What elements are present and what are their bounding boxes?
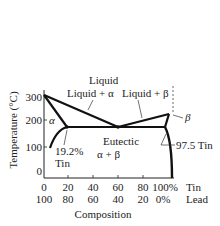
y-axis-label: Temperature (°C) bbox=[7, 91, 20, 169]
y-tick-label-100: 100 bbox=[26, 141, 43, 153]
alpha-limit-pct: 19.2% bbox=[55, 145, 83, 157]
region-liquid-beta: Liquid + β bbox=[122, 87, 169, 99]
x-tin-label-100: 100% bbox=[152, 181, 178, 193]
x-tin-label-0: 0 bbox=[41, 181, 47, 193]
alpha-limit-point bbox=[65, 125, 69, 129]
x-lead-label-20: 20 bbox=[138, 193, 150, 205]
leader-liquid-beta bbox=[138, 100, 142, 118]
x-lead-label-60: 60 bbox=[88, 193, 100, 205]
x-tin-label-40: 40 bbox=[88, 181, 100, 193]
leader-liquid-alpha bbox=[88, 100, 93, 110]
leader-97-5-up bbox=[161, 134, 166, 145]
liquidus-right-line bbox=[118, 114, 169, 127]
leader-19-2 bbox=[64, 130, 67, 145]
region-alpha-beta: α + β bbox=[97, 148, 120, 160]
x-lead-caption: Lead bbox=[186, 193, 208, 205]
x-tin-label-60: 60 bbox=[113, 181, 125, 193]
region-liquid: Liquid bbox=[89, 74, 119, 86]
alpha-limit-unit: Tin bbox=[55, 157, 70, 169]
eutectic-point bbox=[116, 125, 120, 129]
leader-beta bbox=[173, 115, 183, 118]
y-tick-label-300: 300 bbox=[26, 91, 43, 103]
x-tin-label-80: 80 bbox=[138, 181, 150, 193]
x-lead-label-0: 0% bbox=[156, 193, 171, 205]
phase-diagram: 300 200 100 0 Temperature (°C) 0 20 40 6… bbox=[0, 0, 220, 226]
y-tick-label-200: 200 bbox=[26, 114, 43, 126]
x-tin-label-20: 20 bbox=[63, 181, 75, 193]
region-liquid-alpha: Liquid + α bbox=[67, 87, 114, 99]
y-tick-label-0: 0 bbox=[37, 165, 43, 177]
x-lead-label-80: 80 bbox=[63, 193, 75, 205]
region-alpha: α bbox=[49, 114, 55, 126]
eutectic-label: Eutectic bbox=[103, 135, 139, 147]
x-axis-label: Composition bbox=[75, 208, 132, 220]
x-tin-caption: Tin bbox=[186, 181, 201, 193]
x-lead-label-100: 100 bbox=[36, 193, 53, 205]
beta-limit-label: 97.5 Tin bbox=[176, 139, 213, 151]
region-beta: β bbox=[184, 111, 191, 123]
x-lead-label-40: 40 bbox=[113, 193, 125, 205]
